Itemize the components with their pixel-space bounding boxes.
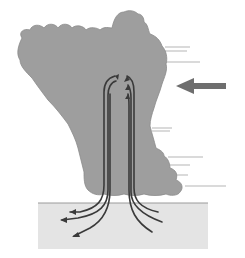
- storm-cloud: [18, 11, 182, 196]
- microburst-diagram: [0, 0, 245, 258]
- wind-arrow: [176, 78, 226, 94]
- ground-surface: [38, 203, 208, 249]
- diagram-canvas: [0, 0, 245, 258]
